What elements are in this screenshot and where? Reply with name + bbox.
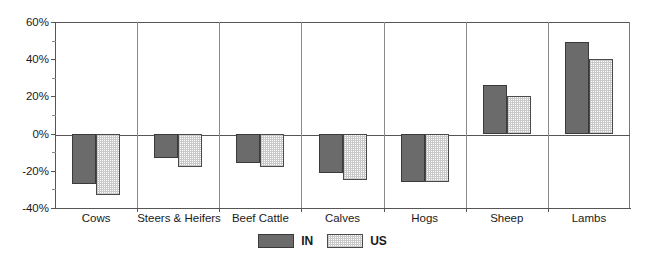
y-tick-minor (52, 152, 56, 153)
group-separator (137, 22, 138, 208)
y-tick-major (51, 134, 56, 135)
group-separator (466, 22, 467, 208)
legend-label-us: US (370, 234, 387, 248)
group-separator (301, 22, 302, 208)
chart-legend: IN US (0, 234, 645, 248)
x-axis-label-steers-heifers: Steers & Heifers (137, 211, 219, 225)
y-axis-label: -20% (3, 165, 49, 177)
y-axis-label: 0% (3, 128, 49, 140)
bar-us-hogs (425, 134, 449, 182)
y-tick-major (51, 22, 56, 23)
bar-in-lambs (565, 42, 589, 133)
x-axis-label-hogs: Hogs (384, 211, 466, 225)
chart-title (0, 0, 645, 2)
bar-in-cows (72, 134, 96, 184)
plot-frame-top (55, 22, 630, 23)
x-axis-label-sheep: Sheep (466, 211, 548, 225)
bar-in-hogs (401, 134, 425, 182)
group-separator (219, 22, 220, 208)
bar-us-steers-heifers (178, 134, 202, 167)
bar-us-calves (343, 134, 367, 181)
bar-us-lambs (589, 59, 613, 133)
plot-area: 60%40%20%0%-20%-40% (55, 22, 630, 208)
y-tick-major (51, 59, 56, 60)
x-axis-label-cows: Cows (55, 211, 137, 225)
group-separator (384, 22, 385, 208)
y-tick-minor (52, 78, 56, 79)
y-tick-major (51, 171, 56, 172)
bar-us-cows (96, 134, 120, 195)
group-separator (548, 22, 549, 208)
bar-in-calves (319, 134, 343, 173)
y-tick-major (51, 208, 56, 209)
x-axis-line (55, 208, 631, 209)
bar-chart: 60%40%20%0%-20%-40% CowsSteers & Heifers… (0, 0, 645, 266)
bar-in-sheep (483, 85, 507, 133)
bar-us-beef-cattle (260, 134, 284, 167)
y-tick-major (51, 96, 56, 97)
legend-item-in: IN (258, 234, 313, 248)
y-axis-label: 40% (3, 53, 49, 65)
bar-in-steers-heifers (154, 134, 178, 158)
legend-item-us: US (327, 234, 387, 248)
y-axis-label: 20% (3, 90, 49, 102)
bar-us-sheep (507, 96, 531, 133)
x-axis-label-calves: Calves (301, 211, 383, 225)
y-axis-label: 60% (3, 16, 49, 28)
legend-swatch-in-icon (258, 234, 294, 248)
y-tick-minor (52, 41, 56, 42)
y-tick-minor (52, 189, 56, 190)
x-axis-label-beef-cattle: Beef Cattle (219, 211, 301, 225)
x-axis-label-lambs: Lambs (548, 211, 630, 225)
bar-in-beef-cattle (236, 134, 260, 164)
legend-swatch-us-icon (327, 234, 363, 248)
plot-frame-right (629, 22, 630, 208)
legend-label-in: IN (301, 234, 313, 248)
y-tick-minor (52, 115, 56, 116)
y-axis-label: -40% (3, 202, 49, 214)
